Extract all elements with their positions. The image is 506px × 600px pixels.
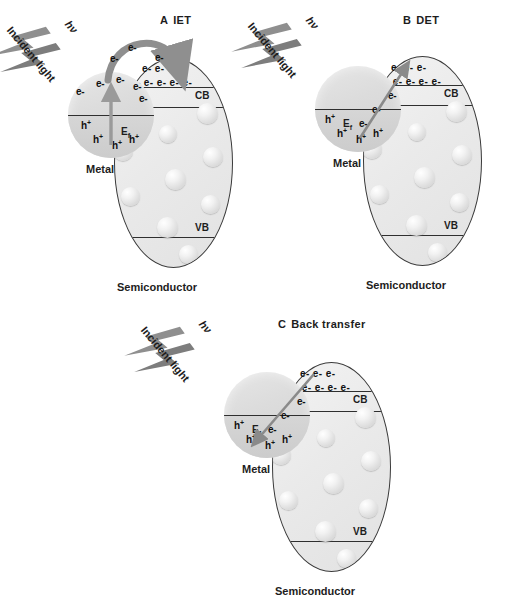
- semiconductor-sphere: [203, 147, 223, 167]
- metal-electron: e-: [372, 104, 381, 115]
- metal-hole: h+: [356, 133, 366, 145]
- panel-b-title: BDET: [403, 14, 439, 26]
- metal-electron: e-: [268, 424, 277, 435]
- metal-electron: e-: [139, 93, 148, 104]
- panel-c-letter: C: [278, 318, 286, 330]
- hole-plus: +: [379, 127, 383, 134]
- semiconductor-sphere: [121, 187, 140, 206]
- vb-line-c: [273, 541, 390, 542]
- cb-label-b: CB: [444, 88, 458, 99]
- semiconductor-sphere: [428, 243, 447, 262]
- fermi-sub-c: f: [259, 430, 261, 437]
- fermi-level-line-c: [224, 415, 310, 416]
- semiconductor-sphere: [165, 169, 186, 190]
- vb-line-a: [115, 237, 232, 238]
- hole-plus: +: [135, 133, 139, 140]
- metal-electron: e-: [133, 81, 142, 92]
- vb-label-c: VB: [353, 526, 367, 537]
- semiconductor-sphere: [157, 217, 178, 238]
- metal-hole: h+: [246, 433, 256, 445]
- hole-plus: +: [252, 433, 256, 440]
- fermi-sub-b: f: [350, 124, 352, 131]
- semiconductor-sphere: [201, 195, 220, 214]
- semiconductor-sphere: [337, 549, 356, 568]
- panel-c-back-transfer: CBack transfer Incident light hν CB VB: [126, 300, 426, 600]
- hole-plus: +: [331, 113, 335, 120]
- metal-electron: e-: [281, 410, 290, 421]
- metal-hole: h+: [112, 139, 122, 151]
- metal-electron: e-: [116, 74, 125, 85]
- semiconductor-sphere: [414, 167, 435, 188]
- metal-electron: e-: [96, 78, 105, 89]
- cb-electron-row-top-b: e- e- e-: [391, 62, 426, 73]
- metal-hole: h+: [282, 433, 292, 445]
- metal-caption-a: Metal: [86, 163, 114, 175]
- vb-line-b: [364, 235, 481, 236]
- semiconductor-sphere: [179, 245, 198, 264]
- metal-hole: h+: [265, 439, 275, 451]
- panel-a-letter: A: [160, 14, 168, 26]
- semiconductor-sphere: [406, 215, 427, 236]
- semiconductor-sphere: [446, 101, 467, 122]
- cb-electron-row-top-a: e- e- e-: [142, 63, 177, 74]
- semiconductor-caption-c: Semiconductor: [275, 585, 355, 597]
- cb-electron-row-top-c: e- e- e-: [300, 368, 335, 379]
- semiconductor-sphere: [279, 491, 298, 510]
- hole-plus: +: [240, 419, 244, 426]
- metal-electron: e-: [388, 90, 397, 101]
- panel-c-name: Back transfer: [291, 318, 365, 330]
- hole-plus: +: [87, 119, 91, 126]
- hole-plus: +: [343, 127, 347, 134]
- metal-hole: h+: [234, 419, 244, 431]
- fermi-e-a: E: [121, 126, 128, 137]
- metal-hole: h+: [373, 127, 383, 139]
- metal-hole: h+: [81, 119, 91, 131]
- vb-label-b: VB: [444, 220, 458, 231]
- panel-a-iet: AIET Incident light hν CB VB: [0, 0, 253, 300]
- panel-a-name: IET: [173, 14, 191, 26]
- panel-b-name: DET: [416, 14, 439, 26]
- metal-hole: h+: [325, 113, 335, 125]
- semiconductor-caption-b: Semiconductor: [366, 279, 446, 291]
- metal-electron: e-: [76, 86, 85, 97]
- arc-electron: e-: [128, 42, 137, 53]
- metal-hole: h+: [93, 133, 103, 145]
- cb-label-a: CB: [195, 90, 209, 101]
- semiconductor-sphere: [323, 473, 344, 494]
- fermi-level-line-a: [68, 115, 154, 116]
- semiconductor-sphere: [361, 451, 381, 471]
- semiconductor-sphere: [315, 521, 336, 542]
- semiconductor-sphere: [197, 103, 218, 124]
- semiconductor-sphere: [355, 407, 376, 428]
- semiconductor-sphere: [408, 123, 426, 141]
- metal-electron: e-: [297, 396, 306, 407]
- arc-electron: e-: [155, 52, 164, 63]
- metal-caption-b: Metal: [333, 157, 361, 169]
- cb-label-c: CB: [353, 394, 367, 405]
- fermi-level-line-b: [315, 109, 401, 110]
- metal-hole: h+: [337, 127, 347, 139]
- panel-b-det: BDET Incident light hν CB VB: [253, 0, 506, 300]
- metal-electron: e-: [359, 118, 368, 129]
- panel-a-title: AIET: [160, 14, 191, 26]
- semiconductor-sphere: [450, 193, 469, 212]
- vb-label-a: VB: [195, 222, 209, 233]
- semiconductor-sphere: [370, 185, 389, 204]
- metal-caption-c: Metal: [242, 463, 270, 475]
- panel-b-letter: B: [403, 14, 411, 26]
- hole-plus: +: [99, 133, 103, 140]
- semiconductor-sphere: [359, 499, 378, 518]
- hole-plus: +: [288, 433, 292, 440]
- hole-plus: +: [362, 133, 366, 140]
- panel-c-title: CBack transfer: [278, 318, 365, 330]
- semiconductor-sphere: [159, 125, 177, 143]
- hole-plus: +: [271, 439, 275, 446]
- arc-electron: e-: [110, 53, 119, 64]
- semiconductor-sphere: [452, 145, 472, 165]
- hole-plus: +: [118, 139, 122, 146]
- semiconductor-caption-a: Semiconductor: [117, 281, 197, 293]
- metal-hole: h+: [129, 133, 139, 145]
- semiconductor-sphere: [317, 429, 335, 447]
